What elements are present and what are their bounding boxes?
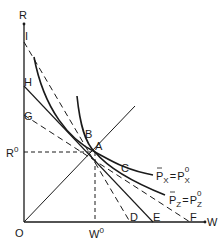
r-axis-arrow-dot <box>23 23 26 26</box>
point-F-label: F <box>190 211 197 223</box>
curve-pz-label: PZ=PZ0 <box>169 189 202 209</box>
line-G-F <box>24 115 190 222</box>
line-I-D <box>24 42 130 222</box>
point-E-label: E <box>153 211 160 223</box>
factor-price-diagram: R W O I H G B A C D E F R0 W0 PX=PX0 PZ=… <box>0 0 223 246</box>
point-C-label: C <box>121 162 129 174</box>
point-A-label: A <box>95 140 103 152</box>
w0-base: W <box>89 228 100 240</box>
r0-label: R0 <box>6 145 19 159</box>
r0-sup: 0 <box>14 145 19 154</box>
r-axis-label: R <box>19 9 27 21</box>
point-G-label: G <box>24 110 33 122</box>
origin-label: O <box>15 227 24 239</box>
curve-px-label: PX=PX0 <box>156 165 190 185</box>
w0-label: W0 <box>89 226 104 240</box>
w-axis-label: W <box>207 216 218 228</box>
w-axis-arrow-dot <box>204 221 207 224</box>
point-B-label: B <box>85 128 92 140</box>
r0-base: R <box>6 147 14 159</box>
point-I-label: I <box>25 30 28 42</box>
point-D-label: D <box>130 211 138 223</box>
curve-pz <box>77 96 165 195</box>
w0-sup: 0 <box>99 226 104 235</box>
point-H-label: H <box>24 76 32 88</box>
